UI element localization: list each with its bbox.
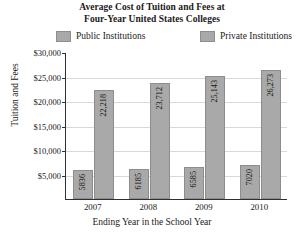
x-axis-tick-label-2010: 2010 <box>234 202 284 212</box>
x-axis-tick-labels: 2007200820092010 <box>65 202 287 214</box>
bar-value-label: 22,218 <box>100 94 109 117</box>
legend-label-public: Public Institutions <box>76 31 145 42</box>
chart-title: Average Cost of Tuition and Fees at Four… <box>0 2 304 25</box>
y-axis-tick-label: $30,000 <box>13 49 61 58</box>
x-axis-tick-label-2007: 2007 <box>68 202 118 212</box>
y-axis-tick-label: $15,000 <box>13 122 61 131</box>
x-axis-tick-label-2009: 2009 <box>179 202 229 212</box>
x-axis-title: Ending Year in the School Year <box>0 217 304 227</box>
chart-title-line-2: Four-Year United States Colleges <box>0 14 304 26</box>
bar-private-2010: 26,273 <box>261 70 281 199</box>
bar-value-label: 6585 <box>190 171 199 187</box>
y-axis-tick <box>62 176 66 177</box>
legend-swatch-private <box>200 31 215 42</box>
bar-value-label: 23,712 <box>156 87 165 110</box>
y-axis-tick <box>62 78 66 79</box>
bar-private-2007: 22,218 <box>94 90 114 199</box>
y-axis-tick <box>62 53 66 54</box>
chart-legend: Public Institutions Private Institutions <box>56 29 292 43</box>
bar-value-label: 7020 <box>246 169 255 185</box>
gridline <box>66 78 287 79</box>
bar-public-2008: 6185 <box>129 169 149 199</box>
bar-public-2010: 7020 <box>240 165 260 199</box>
y-axis-tick-labels: $30,000$25,000$20,000$15,000$10,000$5,00… <box>11 53 61 200</box>
plot-area: 583622,218618523,712658525,143702026,273 <box>65 53 287 200</box>
y-axis-tick <box>62 151 66 152</box>
chart-title-line-1: Average Cost of Tuition and Fees at <box>0 2 304 14</box>
legend-entry-public: Public Institutions <box>56 31 145 42</box>
bar-public-2007: 5836 <box>73 170 93 199</box>
y-axis-tick-label: $10,000 <box>13 147 61 156</box>
y-axis-tick <box>62 127 66 128</box>
bar-value-label: 26,273 <box>267 74 276 97</box>
x-axis-tick-label-2008: 2008 <box>123 202 173 212</box>
legend-swatch-public <box>56 31 71 42</box>
bar-private-2008: 23,712 <box>150 83 170 199</box>
y-axis-tick <box>62 102 66 103</box>
y-axis-tick-label: $20,000 <box>13 98 61 107</box>
legend-entry-private: Private Institutions <box>200 31 292 42</box>
bar-value-label: 25,143 <box>211 80 220 103</box>
bar-value-label: 5836 <box>79 174 88 190</box>
bar-private-2009: 25,143 <box>205 76 225 199</box>
bar-value-label: 6185 <box>135 173 144 189</box>
chart-page: Average Cost of Tuition and Fees at Four… <box>0 0 304 238</box>
bar-public-2009: 6585 <box>184 167 204 199</box>
legend-label-private: Private Institutions <box>220 31 292 42</box>
y-axis-tick-label: $25,000 <box>13 73 61 82</box>
y-axis-tick-label: $5,000 <box>13 171 61 180</box>
